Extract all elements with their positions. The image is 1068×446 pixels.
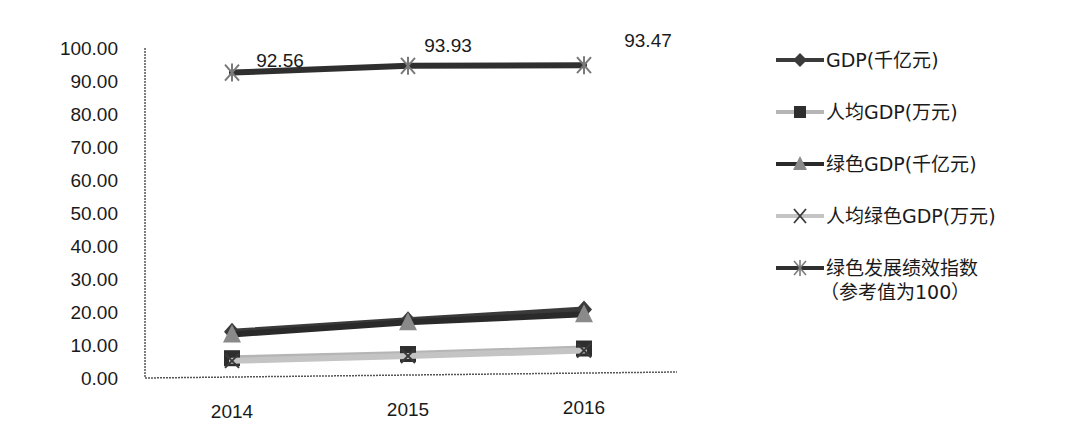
x-tick-label: 2016 xyxy=(563,397,605,418)
triangle-marker-icon xyxy=(776,152,824,176)
data-label: 93.93 xyxy=(424,35,472,56)
y-tick-label: 100.00 xyxy=(60,38,118,59)
x-marker-icon xyxy=(776,204,824,228)
y-tick-label: 20.00 xyxy=(70,302,118,323)
data-label: 92.56 xyxy=(256,50,304,71)
legend-item-green-gdp: 绿色GDP(千亿元) xyxy=(776,152,1066,204)
legend-item-gdp: GDP(千亿元) xyxy=(776,48,1066,100)
y-tick-label: 50.00 xyxy=(70,203,118,224)
legend-label: 人均GDP(万元) xyxy=(826,100,958,124)
diamond-marker-icon xyxy=(776,48,824,72)
x-tick-label: 2014 xyxy=(211,401,254,422)
star-marker-icon xyxy=(776,256,824,280)
square-marker-icon xyxy=(776,100,824,124)
legend-label: 人均绿色GDP(万元) xyxy=(826,204,996,228)
y-tick-label: 30.00 xyxy=(70,269,118,290)
y-tick-label: 0.00 xyxy=(81,368,118,389)
x-axis-line xyxy=(145,372,677,378)
legend-item-green-gdp-per-capita: 人均绿色GDP(万元) xyxy=(776,204,1066,256)
y-tick-label: 60.00 xyxy=(70,170,118,191)
y-tick-label: 90.00 xyxy=(70,71,118,92)
y-tick-label: 70.00 xyxy=(70,137,118,158)
y-axis-tick-labels: 0.0010.0020.0030.0040.0050.0060.0070.008… xyxy=(60,38,118,389)
legend-label: GDP(千亿元) xyxy=(826,48,939,72)
legend-sublabel: （参考值为100） xyxy=(820,280,978,304)
data-label: 93.47 xyxy=(624,30,672,51)
series-layer xyxy=(223,56,593,368)
legend-item-green-performance-index: 绿色发展绩效指数 （参考值为100） xyxy=(776,256,1066,316)
y-tick-label: 40.00 xyxy=(70,236,118,257)
x-axis-tick-labels: 201420152016 xyxy=(211,397,605,422)
legend-label: 绿色发展绩效指数 xyxy=(826,257,978,279)
x-tick-label: 2015 xyxy=(387,399,429,420)
legend-item-gdp-per-capita: 人均GDP(万元) xyxy=(776,100,1066,152)
legend-label: 绿色GDP(千亿元) xyxy=(826,152,977,176)
legend: GDP(千亿元) 人均GDP(万元) 绿色GDP(千亿元) 人均绿色GDP(万元… xyxy=(776,48,1066,316)
y-tick-label: 80.00 xyxy=(70,104,118,125)
y-tick-label: 10.00 xyxy=(70,335,118,356)
